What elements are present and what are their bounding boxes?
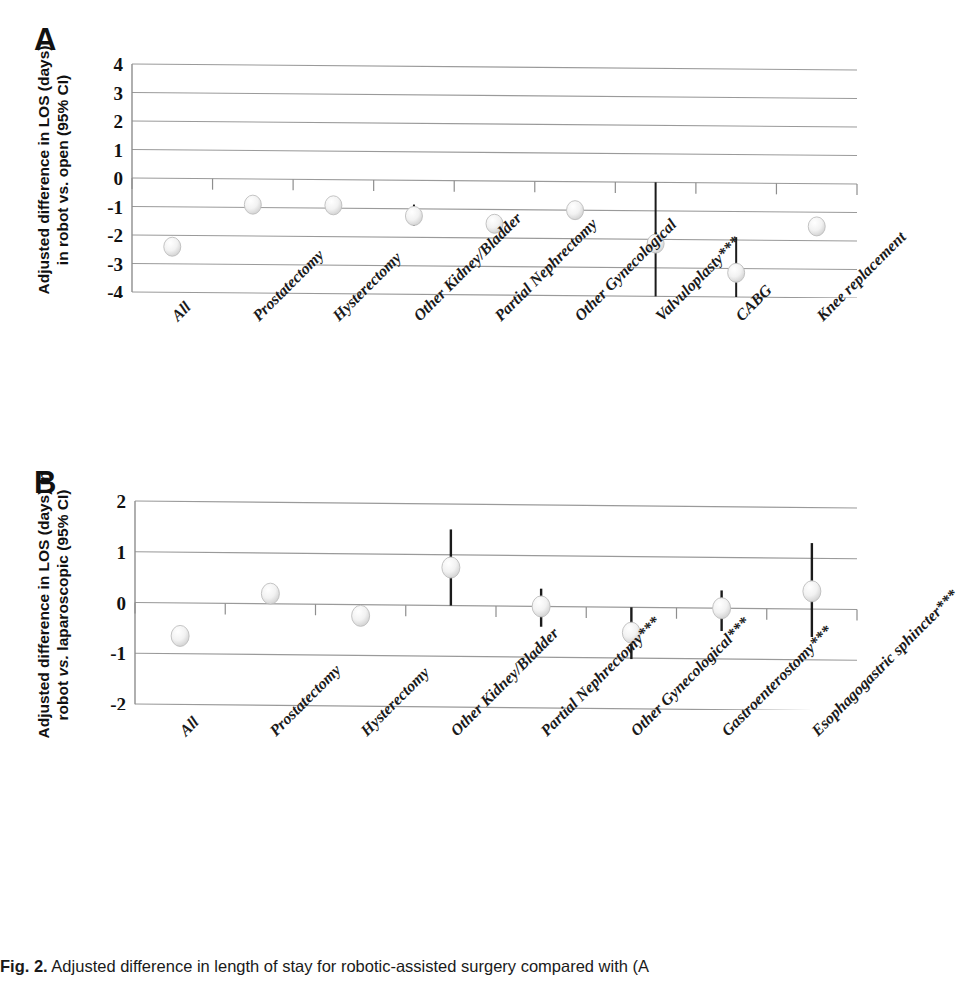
panel-b-ytick-1: 1 [117,542,127,563]
panel-a-y-axis-title: Adjusted difference in LOS (days) in rob… [34,35,72,305]
panel-a-data-point [244,195,261,214]
panel-a-data-point [567,201,584,220]
panel-b-y-axis-title: Adjusted difference in LOS (days) in rob… [34,465,72,745]
panel-b-y-title-em: vs. [54,655,71,677]
panel-b-y-title-pre: robot [54,677,71,721]
panel-b-y-title-line1: Adjusted difference in LOS (days) in [35,472,52,739]
panel-a-data-point [164,237,181,256]
panel-b-y-title-post: laparoscopic (95% CI) [54,490,71,655]
panel-b-ytick-2: 0 [117,593,127,614]
panel-b: B Adjusted difference in LOS (days) in r… [0,455,871,945]
panel-a-ytick-5: -1 [107,197,123,218]
figure-caption-text: Adjusted difference in length of stay fo… [51,957,649,975]
figure-caption-label: Fig. 2. [0,957,48,975]
panel-a: A Adjusted difference in LOS (days) in r… [0,0,871,465]
panel-a-data-point [808,217,825,236]
panel-b-ytick-3: -1 [110,643,126,664]
panel-b-data-point [803,543,821,637]
panel-a-data-point [325,196,342,215]
panel-a-ytick-0: 4 [114,58,124,75]
panel-b-y-title-line2: robot vs. laparoscopic (95% CI) [54,490,71,721]
panel-b-ytick-0: 2 [117,495,127,512]
panel-a-y-title-line1: Adjusted difference in LOS (days) [35,46,52,295]
panel-a-ytick-4: 0 [114,168,124,189]
panel-a-ytick-2: 2 [114,111,124,132]
panel-b-category-label: All [176,713,203,740]
panel-b-ytick-4: -2 [110,694,126,710]
panel-b-data-point [532,589,550,627]
panel-a-y-title-line2: in robot vs. open (95% CI) [54,75,71,265]
panel-a-ytick-3: 1 [114,140,124,161]
panel-a-data-point [405,205,422,226]
panel-a-ytick-6: -2 [107,225,123,246]
panel-a-category-label: All [168,298,195,325]
panel-a-ytick-1: 3 [114,83,124,104]
panel-b-data-point [352,605,370,626]
panel-b-plot: 210-1-2 [95,495,863,710]
panel-b-data-point [442,529,460,605]
panel-b-data-point [261,583,279,604]
panel-a-ytick-8: -4 [107,282,123,298]
panel-b-data-point [171,625,189,646]
figure-caption: Fig. 2. Adjusted difference in length of… [0,957,871,976]
panel-a-ytick-7: -3 [107,254,123,275]
